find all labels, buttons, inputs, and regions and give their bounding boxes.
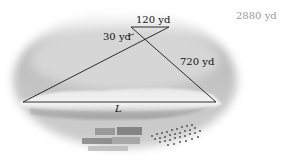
label-120yd: 120 yd — [136, 15, 170, 25]
label-L: L — [115, 104, 122, 114]
answer-2880yd: 2880 yd — [236, 11, 277, 21]
label-30yd: 30 yd — [103, 32, 131, 42]
label-720yd: 720 yd — [180, 57, 214, 67]
